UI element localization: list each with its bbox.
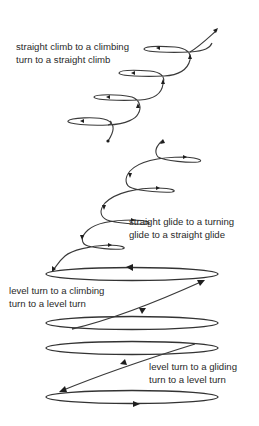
label-level-glide: level turn to a gliding turn to a level … bbox=[149, 361, 237, 386]
label-straight-climb: straight climb to a climbing turn to a s… bbox=[16, 41, 129, 66]
label-line: turn to a level turn bbox=[9, 298, 104, 311]
label-line: level turn to a climbing bbox=[9, 285, 104, 298]
label-straight-glide: straight glide to a turning glide to a s… bbox=[129, 216, 234, 241]
label-line: level turn to a gliding bbox=[149, 361, 237, 374]
label-line: glide to a straight glide bbox=[129, 229, 234, 242]
label-line: turn to a level turn bbox=[149, 374, 237, 387]
label-line: turn to a straight climb bbox=[16, 54, 129, 67]
label-line: straight climb to a climbing bbox=[16, 41, 129, 54]
label-level-climb: level turn to a climbing turn to a level… bbox=[9, 285, 104, 310]
direction-arrow-icon bbox=[120, 359, 127, 365]
label-line: straight glide to a turning bbox=[129, 216, 234, 229]
direction-arrow-icon bbox=[126, 264, 133, 271]
gliding-spiral bbox=[52, 139, 201, 272]
direction-arrow-icon bbox=[80, 119, 84, 123]
